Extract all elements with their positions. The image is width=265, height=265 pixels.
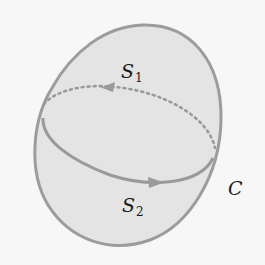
- label-c: C: [228, 179, 243, 198]
- diagram-drawing: [0, 0, 265, 265]
- label-s2: S2: [122, 196, 144, 215]
- label-s1: S1: [121, 62, 143, 81]
- surface-diagram: S1 S2 C: [0, 0, 265, 265]
